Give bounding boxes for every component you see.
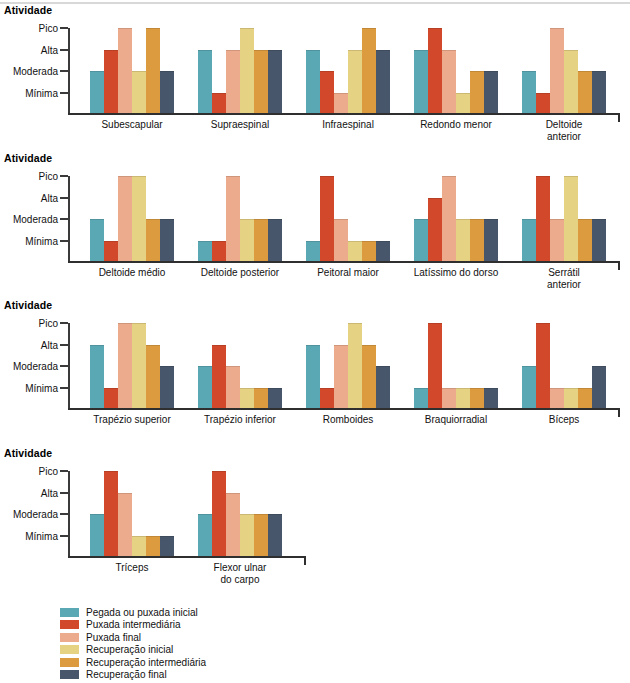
bar [90, 71, 104, 113]
y-axis-tick-label: Pico [39, 23, 58, 34]
bar [470, 388, 484, 409]
bar [226, 493, 240, 557]
bar [320, 176, 334, 261]
bar [268, 388, 282, 409]
bar [212, 93, 226, 114]
x-axis-category-label: Redondo menor [420, 119, 492, 131]
y-axis-tick [60, 513, 68, 515]
x-axis-labels: Deltoide médioDeltoide posteriorPeitoral… [70, 263, 630, 293]
x-axis-category-label: Infraespinal [322, 119, 374, 131]
y-axis-tick-label: Mínima [25, 382, 58, 393]
y-axis-tick [60, 218, 68, 220]
plot-area: PicoAltaModeradaMínimaDeltoide médioDelt… [0, 166, 630, 278]
bar [268, 514, 282, 556]
legend-item: Puxada intermediária [60, 619, 206, 632]
y-axis-tick-label: Pico [39, 171, 58, 182]
bar [90, 514, 104, 556]
x-axis-category-label: Latíssimo do dorso [414, 267, 499, 279]
bar [212, 471, 226, 556]
legend-item: Recuperação final [60, 669, 206, 682]
plot-area: PicoAltaModeradaMínimaSubescapularSuprae… [0, 18, 630, 130]
bar [306, 50, 320, 114]
y-axis-tick [60, 70, 68, 72]
legend-item: Recuperação intermediária [60, 656, 206, 669]
bar [348, 50, 362, 114]
y-axis-tick [60, 175, 68, 177]
y-axis: PicoAltaModeradaMínima [0, 18, 72, 130]
x-axis-category-label: Serrátil anterior [531, 267, 597, 291]
x-axis-category-label: Peitoral maior [317, 267, 379, 279]
chart-panel: AtividadePicoAltaModeradaMínimaSubescapu… [0, 4, 630, 130]
bar [320, 388, 334, 409]
bar [198, 241, 212, 262]
bar [254, 50, 268, 114]
bar [104, 471, 118, 556]
bar-group [90, 18, 174, 113]
bar [212, 345, 226, 409]
chart-panel: AtividadePicoAltaModeradaMínimaTrapézio … [0, 299, 630, 425]
bar [254, 219, 268, 261]
y-axis-tick [60, 197, 68, 199]
bar [240, 388, 254, 409]
bar [198, 366, 212, 408]
bar [550, 28, 564, 113]
bar [268, 219, 282, 261]
panel-axis-title: Atividade [4, 4, 630, 16]
bar [118, 493, 132, 557]
x-axis-category-label: Romboides [323, 414, 374, 426]
legend-label: Pegada ou puxada inicial [86, 607, 198, 618]
y-axis-tick [60, 344, 68, 346]
chart-panel: AtividadePicoAltaModeradaMínimaDeltoide … [0, 152, 630, 278]
bar [226, 366, 240, 408]
bar [132, 536, 146, 557]
bar-group [90, 461, 174, 556]
legend-label: Recuperação intermediária [86, 657, 206, 668]
y-axis-tick [60, 240, 68, 242]
x-axis-category-label: Deltoide posterior [201, 267, 279, 279]
legend-label: Puxada intermediária [86, 619, 181, 630]
bar [470, 219, 484, 261]
bars-area [70, 18, 630, 113]
bar-group [90, 166, 174, 261]
bar-group [198, 461, 282, 556]
bar [536, 93, 550, 114]
bar [104, 50, 118, 114]
y-axis-tick-label: Mínima [25, 235, 58, 246]
bar [592, 71, 606, 113]
plot-area: PicoAltaModeradaMínimaTrícepsFlexor ulna… [0, 461, 630, 573]
y-axis-tick [60, 322, 68, 324]
bar [160, 71, 174, 113]
bar [212, 241, 226, 262]
legend-color-swatch [60, 658, 79, 667]
bar [484, 219, 498, 261]
bar [578, 219, 592, 261]
bar [104, 241, 118, 262]
x-axis-category-label: Subescapular [101, 119, 162, 131]
bar [90, 345, 104, 409]
bars-area [70, 166, 630, 261]
bar [428, 28, 442, 113]
x-axis-category-label: Trapézio superior [93, 414, 170, 426]
chart-panel: AtividadePicoAltaModeradaMínimaTrícepsFl… [0, 447, 630, 573]
bar [592, 219, 606, 261]
bar [564, 50, 578, 114]
bar-group [198, 166, 282, 261]
bar [160, 366, 174, 408]
bar [226, 50, 240, 114]
bar [306, 345, 320, 409]
y-axis-tick-label: Alta [41, 192, 58, 203]
bar [442, 50, 456, 114]
bar-group [414, 166, 498, 261]
x-axis-labels: SubescapularSupraespinalInfraespinalRedo… [70, 115, 630, 145]
x-axis-category-label: Flexor ulnar do carpo [214, 562, 267, 586]
bar [348, 323, 362, 408]
y-axis-tick-label: Mínima [25, 87, 58, 98]
bar [414, 219, 428, 261]
legend-item: Recuperação inicial [60, 644, 206, 657]
bar [592, 366, 606, 408]
x-axis-category-label: Deltoide anterior [531, 119, 597, 143]
bar [578, 388, 592, 409]
chart-legend: Pegada ou puxada inicialPuxada intermedi… [60, 606, 206, 681]
y-axis-tick-label: Mínima [25, 530, 58, 541]
bar [376, 241, 390, 262]
